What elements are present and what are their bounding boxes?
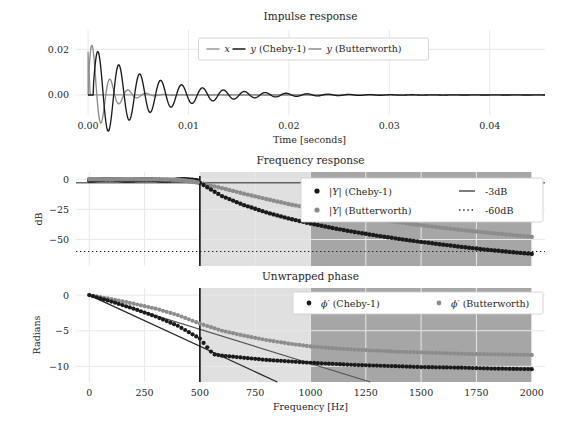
xtick-label: 500 — [191, 387, 209, 398]
axis-label-time: Time [seconds] — [273, 134, 346, 145]
legend-label: -3dB — [485, 186, 507, 197]
xtick-label: 2000 — [520, 387, 544, 398]
xtick-label: 0.01 — [178, 120, 199, 131]
legend-label: y (Cheby-1) — [250, 43, 307, 54]
xtick-label: 1500 — [409, 387, 433, 398]
xtick-label: 0 — [86, 387, 92, 398]
series-y-cheby — [88, 52, 545, 132]
axis-label-radians: Radians — [31, 315, 42, 354]
legend-label: x — [225, 43, 231, 54]
panel-impulse-response: 0.000.010.020.030.040.000.02Impulse resp… — [48, 10, 545, 145]
xtick-label: 0.04 — [479, 120, 500, 131]
figure-canvas: 0.000.010.020.030.040.000.02Impulse resp… — [0, 0, 569, 426]
ytick-label: 0 — [63, 290, 69, 301]
legend-impulse[interactable]: xy (Cheby-1)y (Butterworth) — [199, 38, 429, 60]
series-mag-butterworth-passband — [87, 177, 200, 184]
panel-frequency-response: 0−25−50dBFrequency response|Y| (Cheby-1)… — [33, 154, 545, 266]
panel-title-impulse: Impulse response — [264, 10, 358, 22]
xtick-label: 250 — [136, 387, 154, 398]
xtick-label: 750 — [246, 387, 264, 398]
panel-title-frequency: Frequency response — [256, 154, 364, 166]
panel-unwrapped-phase: 0250500750100012501500175020000−5−10Radi… — [31, 270, 545, 412]
axis-label-frequency: Frequency [Hz] — [273, 401, 348, 412]
legend-label: -60dB — [485, 205, 513, 216]
legend-marker — [307, 301, 312, 306]
ytick-label: −25 — [49, 204, 69, 215]
ytick-label: 0.00 — [48, 89, 69, 100]
legend-label: y (Butterworth) — [326, 43, 402, 54]
legend-marker — [437, 301, 442, 306]
legend-frequency[interactable]: |Y| (Cheby-1)-3dB|Y| (Butterworth)-60dB — [301, 178, 543, 222]
legend-phase[interactable]: ϕ′ (Cheby-1)ϕ′ (Butterworth) — [293, 292, 543, 314]
legend-marker — [314, 188, 319, 193]
ytick-label: −5 — [55, 325, 69, 336]
ytick-label: −50 — [49, 234, 69, 245]
xtick-label: 0.03 — [379, 120, 400, 131]
xtick-label: 0.02 — [278, 120, 299, 131]
axis-label-db: dB — [33, 212, 44, 225]
ytick-label: 0.02 — [48, 44, 69, 55]
xtick-label: 1000 — [298, 387, 322, 398]
xtick-label: 1750 — [464, 387, 488, 398]
xtick-label: 1250 — [354, 387, 378, 398]
legend-label: |Y| (Butterworth) — [329, 205, 411, 217]
ytick-label: 0 — [63, 174, 69, 185]
ytick-label: −10 — [49, 361, 69, 372]
panel-title-phase: Unwrapped phase — [262, 270, 359, 282]
matplotlib-figure: 0.000.010.020.030.040.000.02Impulse resp… — [0, 0, 569, 426]
legend-label: |Y| (Cheby-1) — [329, 186, 392, 198]
legend-marker — [314, 207, 319, 212]
legend-label: ϕ′ (Butterworth) — [451, 298, 529, 309]
xtick-label: 0.00 — [77, 120, 98, 131]
legend-label: ϕ′ (Cheby-1) — [321, 298, 380, 309]
